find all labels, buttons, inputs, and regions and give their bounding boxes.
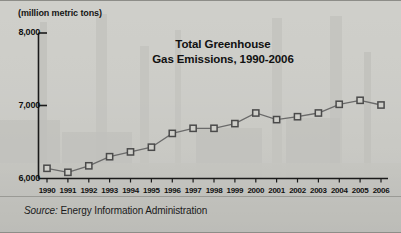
data-point-2003 <box>315 110 321 116</box>
data-point-1997 <box>190 125 196 131</box>
data-point-2001 <box>274 117 280 123</box>
data-point-1994 <box>127 149 133 155</box>
y-tick-label-7000: 7,000 <box>0 100 40 110</box>
source-agency: Energy Information Administration <box>58 205 207 216</box>
data-point-1995 <box>148 144 154 150</box>
data-point-1999 <box>232 121 238 127</box>
data-point-1992 <box>86 163 92 169</box>
data-line <box>47 100 381 172</box>
x-tick-label-2006: 2006 <box>368 186 394 195</box>
data-point-2006 <box>378 102 384 108</box>
data-point-2004 <box>336 101 342 107</box>
plot-area: 6,0007,0008,000 199019911992199319941995… <box>0 0 401 233</box>
data-point-1991 <box>65 169 71 175</box>
data-point-2002 <box>294 114 300 120</box>
chart-figure: (million metric tons) Total Greenhouse G… <box>0 0 401 233</box>
source-prefix: Source: <box>24 205 58 216</box>
y-tick-label-6000: 6,000 <box>0 173 40 183</box>
data-point-1996 <box>169 130 175 136</box>
y-tick-label-8000: 8,000 <box>0 27 40 37</box>
chart-svg <box>0 0 401 233</box>
data-point-1990 <box>44 165 50 171</box>
data-point-1993 <box>107 154 113 160</box>
data-point-2005 <box>357 97 363 103</box>
source-caption: Source: Energy Information Administratio… <box>24 205 207 216</box>
data-point-2000 <box>253 110 259 116</box>
data-point-1998 <box>211 125 217 131</box>
